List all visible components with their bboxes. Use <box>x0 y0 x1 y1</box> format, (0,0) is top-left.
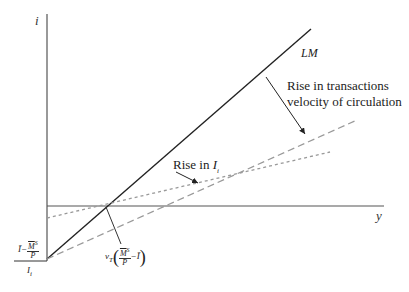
velocity-annotation-line2: velocity of circulation <box>287 94 402 110</box>
x-intercept-denominator: P <box>119 259 131 267</box>
velocity-annotation: Rise in transactions velocity of circula… <box>287 78 402 110</box>
lm-curve <box>47 29 311 259</box>
y-axis-label: i <box>35 14 39 27</box>
intercept-numerator: M <box>28 242 35 251</box>
x-intercept-numerator-sup: S <box>127 247 130 253</box>
rise-in-Ii-annotation: Rise in Ii <box>173 157 219 179</box>
x-intercept-label: vT(MSP−Ī) <box>105 247 146 267</box>
x-intercept-pointer <box>106 207 121 244</box>
intercept-denominator: P <box>27 252 39 260</box>
x-intercept-numerator: M <box>120 249 127 258</box>
diagram-canvas <box>0 0 409 292</box>
lm-shift-rise-in-velocity <box>47 120 357 259</box>
x-intercept-fraction: MSP <box>119 247 131 267</box>
rise-in-text: Rise in <box>173 157 213 172</box>
y-intercept-label: Ī−MSP <box>18 240 39 260</box>
rise-sub: i <box>217 167 219 175</box>
x-axis-label: y <box>376 209 382 222</box>
lm-label: LM <box>301 47 318 59</box>
velocity-annotation-line1: Rise in transactions <box>287 78 402 94</box>
intercept-divisor: Ii <box>27 266 32 278</box>
intercept-numerator-sup: S <box>35 240 38 246</box>
intercept-fraction: MSP <box>27 240 39 260</box>
intercept-divisor-sub: i <box>30 270 32 278</box>
